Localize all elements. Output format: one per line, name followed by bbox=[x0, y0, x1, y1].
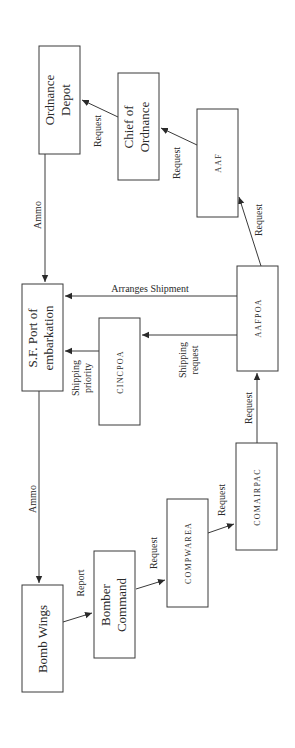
edge-label: Request bbox=[243, 392, 254, 424]
edge-label: Report bbox=[75, 569, 86, 596]
node-label: Chief of bbox=[121, 105, 136, 149]
node-label: Bomb Wings bbox=[35, 605, 50, 673]
edge-label: Request bbox=[92, 115, 103, 147]
edge-label: Ammo bbox=[32, 201, 43, 229]
node-compwarea: COMPWAREA bbox=[167, 499, 208, 607]
node-aafpoa: AAFPOA bbox=[237, 266, 278, 371]
edge-label: Request bbox=[148, 537, 159, 569]
node-aaf: AAF bbox=[197, 109, 238, 217]
edge-label: Shipping bbox=[70, 360, 81, 396]
edge-label: Request bbox=[253, 204, 264, 236]
node-label: Ordnance bbox=[137, 102, 152, 153]
edge-chief-to-depot bbox=[82, 100, 118, 117]
node-bomb-wings: Bomb Wings bbox=[22, 585, 63, 692]
node-label: COMAIRPAC bbox=[253, 468, 262, 526]
node-label: CINCPOA bbox=[116, 350, 125, 394]
edge-wings-to-bomber bbox=[63, 613, 92, 622]
node-comairpac: COMAIRPAC bbox=[236, 443, 277, 550]
node-label: embarkation bbox=[41, 305, 56, 370]
node-label: Command bbox=[114, 577, 129, 632]
edge-label: Shipping bbox=[177, 342, 188, 378]
node-label: AAF bbox=[214, 153, 223, 173]
org-flow-diagram: Ordnance Depot Chief of Ordnance AAF S.F… bbox=[0, 0, 295, 748]
node-ordnance-depot: Ordnance Depot bbox=[39, 46, 80, 154]
node-cincpoa: CINCPOA bbox=[99, 318, 140, 425]
node-label: Depot bbox=[58, 84, 73, 116]
edge-label: Ammo bbox=[27, 485, 38, 513]
edge-label: Request bbox=[171, 147, 182, 179]
edge-label: priority bbox=[82, 363, 93, 393]
node-label: S.F. Port of bbox=[25, 308, 40, 368]
node-label: Ordnance bbox=[42, 75, 57, 126]
edge-label: request bbox=[189, 345, 200, 374]
edge-aaf-to-chief bbox=[161, 128, 197, 145]
node-label: Bomber bbox=[98, 583, 113, 626]
node-label: AAFPOA bbox=[254, 298, 263, 337]
node-label: COMPWAREA bbox=[184, 522, 193, 584]
edge-bomber-to-compwarea bbox=[136, 580, 165, 589]
edge-label: Arranges Shipment bbox=[111, 283, 189, 294]
edge-label: Request bbox=[216, 484, 227, 516]
node-bomber-command: Bomber Command bbox=[94, 551, 135, 658]
edge-compwarea-to-comairpac bbox=[208, 524, 234, 533]
node-sf-port-of-embarkation: S.F. Port of embarkation bbox=[22, 284, 63, 391]
node-chief-of-ordnance: Chief of Ordnance bbox=[118, 73, 159, 180]
